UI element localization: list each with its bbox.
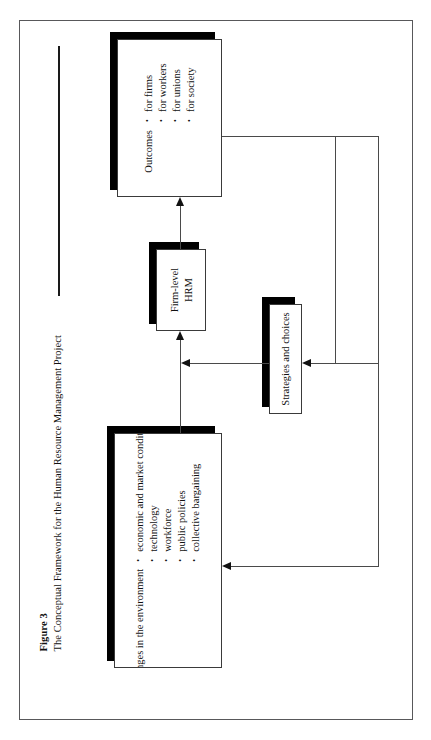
- node-outcomes-content: Outcomes for firms for workers for union…: [142, 63, 198, 172]
- list-item: for workers: [156, 63, 170, 112]
- list-item: collective bargaining: [189, 433, 203, 551]
- list-item: for firms: [142, 63, 156, 112]
- edge-firm-to-outcomes-line: [180, 206, 181, 249]
- node-firm-level-hrm-line1: Firm-level: [168, 268, 182, 312]
- list-item: for society: [184, 63, 198, 112]
- node-firm-level-hrm[interactable]: Firm-level HRM: [156, 249, 206, 331]
- list-item: economic and market conditions: [133, 433, 147, 551]
- edge-feedback-to-strategies-line: [311, 363, 378, 364]
- edge-outcomes-feedback-vertical-line: [378, 136, 379, 566]
- edge-changes-to-firm-line: [180, 340, 181, 433]
- list-item: for unions: [170, 63, 184, 112]
- edge-strategies-to-firm-arrowhead: [181, 359, 190, 367]
- edge-feedback-to-changes-line: [231, 566, 379, 567]
- list-item: workforce: [161, 433, 175, 551]
- edge-changes-to-firm-arrowhead: [176, 331, 184, 340]
- node-outcomes-face: Outcomes for firms for workers for union…: [117, 39, 222, 197]
- node-firm-level-hrm-face: Firm-level HRM: [156, 249, 206, 331]
- node-outcomes-heading: Outcomes: [142, 130, 156, 173]
- edge-feedback-to-changes-arrowhead: [222, 562, 231, 570]
- edge-feedback-to-strategies-arrowhead: [302, 359, 311, 367]
- edge-outcomes-feedback-top-line: [222, 136, 378, 137]
- node-changes-content: Changes in the environment economic and …: [133, 433, 203, 668]
- edge-firm-to-outcomes-arrowhead: [176, 197, 184, 206]
- figure-page: Figure 3 The Conceptual Framework for th…: [0, 0, 431, 740]
- list-item: public policies: [175, 433, 189, 551]
- node-strategies-and-choices-label: Strategies and choices: [279, 312, 293, 405]
- edge-feedback-to-strategies-vertical: [335, 136, 336, 363]
- node-outcomes-bullet-list: for firms for workers for unions for soc…: [142, 63, 198, 124]
- edge-strategies-to-firm-line: [190, 363, 269, 364]
- list-item: technology: [147, 433, 161, 551]
- node-changes-face: Changes in the environment economic and …: [114, 433, 222, 668]
- node-strategies-and-choices[interactable]: Strategies and choices: [269, 304, 302, 414]
- caption-rule-divider: [58, 46, 60, 296]
- node-strategies-and-choices-face: Strategies and choices: [269, 304, 302, 414]
- node-outcomes[interactable]: Outcomes for firms for workers for union…: [117, 39, 222, 197]
- node-changes-heading: Changes in the environment: [133, 568, 147, 668]
- node-firm-level-hrm-line2: HRM: [181, 268, 195, 312]
- node-changes-in-the-environment[interactable]: Changes in the environment economic and …: [114, 433, 222, 668]
- node-changes-bullet-list: economic and market conditions technolog…: [133, 433, 203, 563]
